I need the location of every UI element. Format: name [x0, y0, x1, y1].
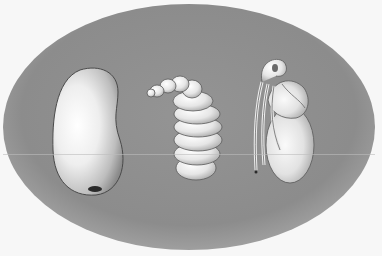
- egg-specimen: [53, 68, 123, 195]
- life-cycle-illustration: [0, 0, 382, 256]
- egg-micropyle: [88, 186, 102, 192]
- scan-line: [3, 154, 375, 155]
- illustration: [0, 0, 382, 256]
